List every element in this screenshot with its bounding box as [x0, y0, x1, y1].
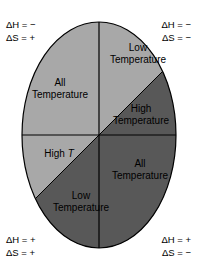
corner-label-top-right: ΔH = − ΔS = −	[161, 18, 191, 44]
region-label-upper-right-low-line1: Low	[100, 42, 176, 54]
region-label-lower-left-high-t: High T	[22, 148, 96, 160]
region-label-upper-right-high-line1: High	[103, 103, 179, 115]
high-t-word: High	[44, 148, 65, 159]
corner-label-top-left: ΔH = − ΔS = +	[6, 18, 36, 44]
top-left-enthalpy: ΔH = −	[6, 18, 36, 31]
region-label-lower-right: All Temperature	[102, 158, 178, 182]
region-label-upper-left: All Temperature	[21, 77, 99, 101]
region-label-lower-left-high-t-text: High T	[22, 148, 96, 160]
region-label-lower-left-low: Low Temperature	[42, 190, 120, 214]
region-label-upper-left-line1: All	[21, 77, 99, 89]
high-t-symbol: T	[68, 148, 74, 159]
region-label-lower-left-low-line2: Temperature	[42, 202, 120, 214]
top-left-entropy: ΔS = +	[6, 31, 36, 44]
spontaneity-diagram-figure: ΔH = − ΔS = + ΔH = − ΔS = − ΔH = + ΔS = …	[0, 0, 197, 273]
corner-label-bottom-right: ΔH = + ΔS = −	[161, 233, 191, 259]
region-label-lower-right-line1: All	[102, 158, 178, 170]
region-label-upper-left-line2: Temperature	[21, 89, 99, 101]
region-label-lower-right-line2: Temperature	[102, 170, 178, 182]
region-label-upper-right-low-line2: Temperature	[100, 54, 176, 66]
region-label-upper-right-high: High Temperature	[103, 103, 179, 127]
bottom-right-entropy: ΔS = −	[161, 246, 191, 259]
region-label-upper-right-low: Low Temperature	[100, 42, 176, 66]
corner-label-bottom-left: ΔH = + ΔS = +	[6, 233, 36, 259]
top-right-enthalpy: ΔH = −	[161, 18, 191, 31]
bottom-right-enthalpy: ΔH = +	[161, 233, 191, 246]
bottom-left-enthalpy: ΔH = +	[6, 233, 36, 246]
bottom-left-entropy: ΔS = +	[6, 246, 36, 259]
region-label-upper-right-high-line2: Temperature	[103, 115, 179, 127]
region-label-lower-left-low-line1: Low	[42, 190, 120, 202]
